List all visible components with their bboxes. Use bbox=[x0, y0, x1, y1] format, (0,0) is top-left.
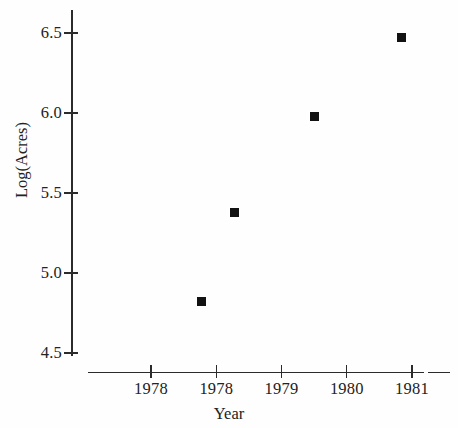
y-axis-title: Log(Acres) bbox=[12, 100, 32, 220]
data-point-marker bbox=[230, 208, 239, 217]
plot-area bbox=[0, 0, 458, 428]
data-point-marker bbox=[397, 33, 406, 42]
x-axis-title: Year bbox=[0, 404, 458, 424]
data-point-marker bbox=[197, 297, 206, 306]
scatter-plot-figure: 4.55.05.56.06.5 19781978197919801981 Yea… bbox=[0, 0, 458, 428]
data-point-marker bbox=[310, 112, 319, 121]
